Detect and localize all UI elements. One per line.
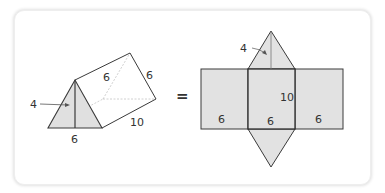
triangular-prism: 4 6 6 6 10 <box>30 53 156 146</box>
net-length-label: 10 <box>280 91 294 104</box>
prism-height-label: 4 <box>30 98 37 111</box>
net-width-label-middle: 6 <box>267 115 274 128</box>
prism-side-top-label: 6 <box>103 71 110 84</box>
prism-net-diagram: 4 6 6 6 10 = 4 10 6 6 6 <box>0 0 385 193</box>
prism-side-right-label: 6 <box>146 69 153 82</box>
net-height-label: 4 <box>240 42 247 55</box>
net-width-label-right: 6 <box>315 113 322 126</box>
equals-sign: = <box>176 87 189 105</box>
bottom-right-edge <box>102 99 156 128</box>
prism-base-label: 6 <box>71 133 78 146</box>
prism-length-label: 10 <box>130 116 144 129</box>
net-top-triangle <box>248 31 295 69</box>
net-bottom-triangle <box>248 129 295 167</box>
net-width-label-left: 6 <box>218 113 225 126</box>
prism-net: 4 10 6 6 6 <box>201 31 343 167</box>
